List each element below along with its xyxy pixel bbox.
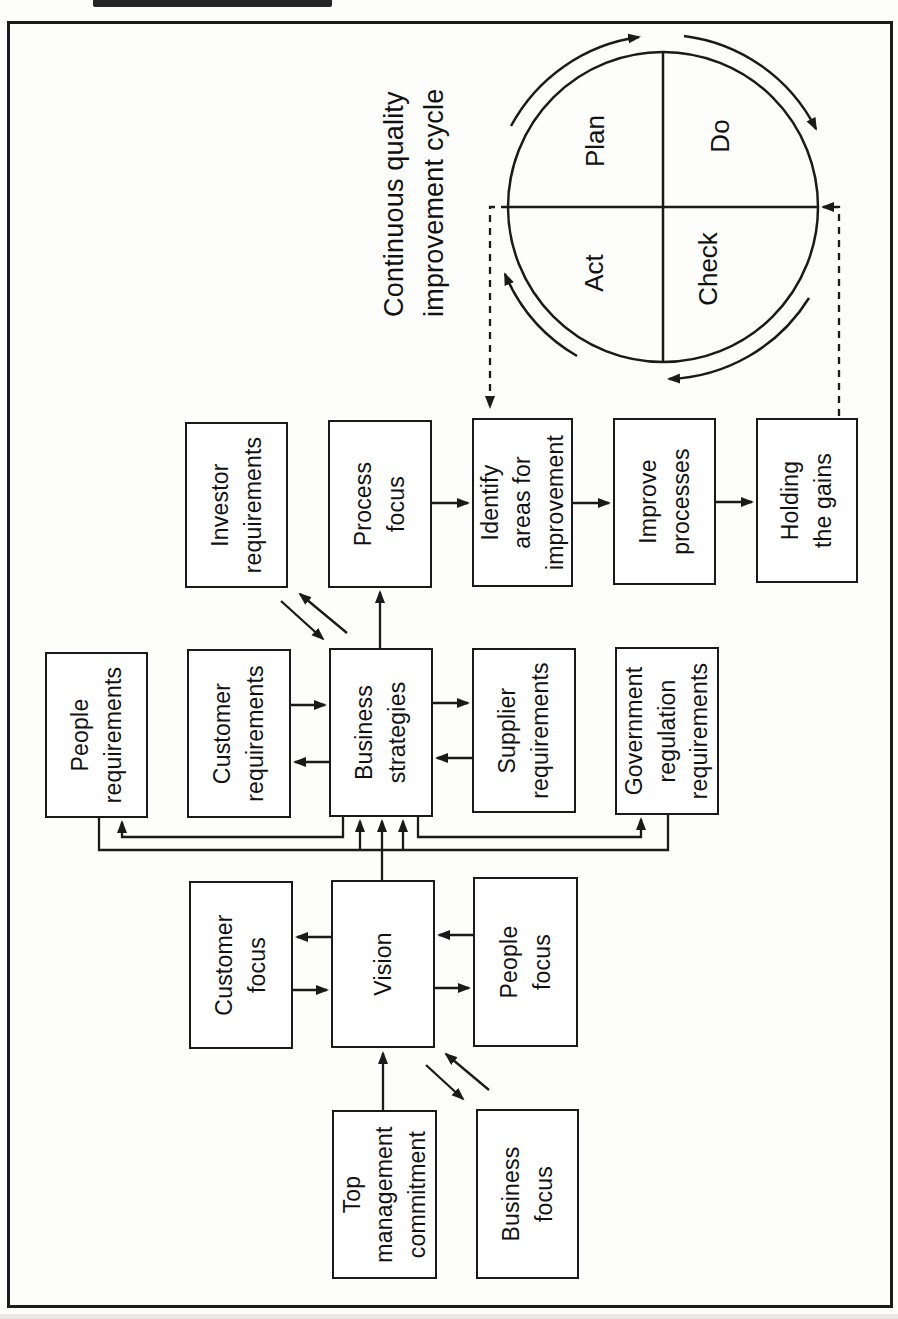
pdca-circle xyxy=(505,36,818,379)
quadrant-act: Act xyxy=(579,213,610,333)
node-government-regulation-requirements: Government regulation requirements xyxy=(615,647,719,815)
node-business-strategies: Business strategies xyxy=(329,648,433,817)
dashed-links xyxy=(490,207,839,416)
node-people-requirements: People requirements xyxy=(45,652,148,818)
diagram-canvas: Top management commitment Business focus… xyxy=(0,0,898,1319)
node-business-focus: Business focus xyxy=(476,1109,579,1279)
node-vision: Vision xyxy=(331,880,435,1048)
quadrant-check: Check xyxy=(693,209,724,329)
node-identify-areas-for-improvement: Identify areas for improvement xyxy=(472,418,573,587)
node-people-focus: People focus xyxy=(473,877,578,1047)
node-top-management-commitment: Top management commitment xyxy=(332,1110,437,1279)
node-investor-requirements: Investor requirements xyxy=(185,422,288,588)
scan-artifact-top-edge xyxy=(93,0,332,7)
node-improve-processes: Improve processes xyxy=(613,418,716,585)
quadrant-do: Do xyxy=(705,76,736,196)
node-holding-the-gains: Holding the gains xyxy=(756,418,858,583)
node-customer-requirements: Customer requirements xyxy=(187,649,291,818)
quadrant-plan: Plan xyxy=(580,81,611,201)
scanned-page: { "figure": { "kind": "total-quality-man… xyxy=(0,0,898,1319)
node-supplier-requirements: Supplier requirements xyxy=(472,648,576,813)
node-process-focus: Process focus xyxy=(328,420,432,588)
cycle-title: Continuous quality improvement cycle xyxy=(374,37,454,317)
scan-artifact-bottom-edge xyxy=(0,1314,898,1319)
node-customer-focus: Customer focus xyxy=(189,881,293,1049)
